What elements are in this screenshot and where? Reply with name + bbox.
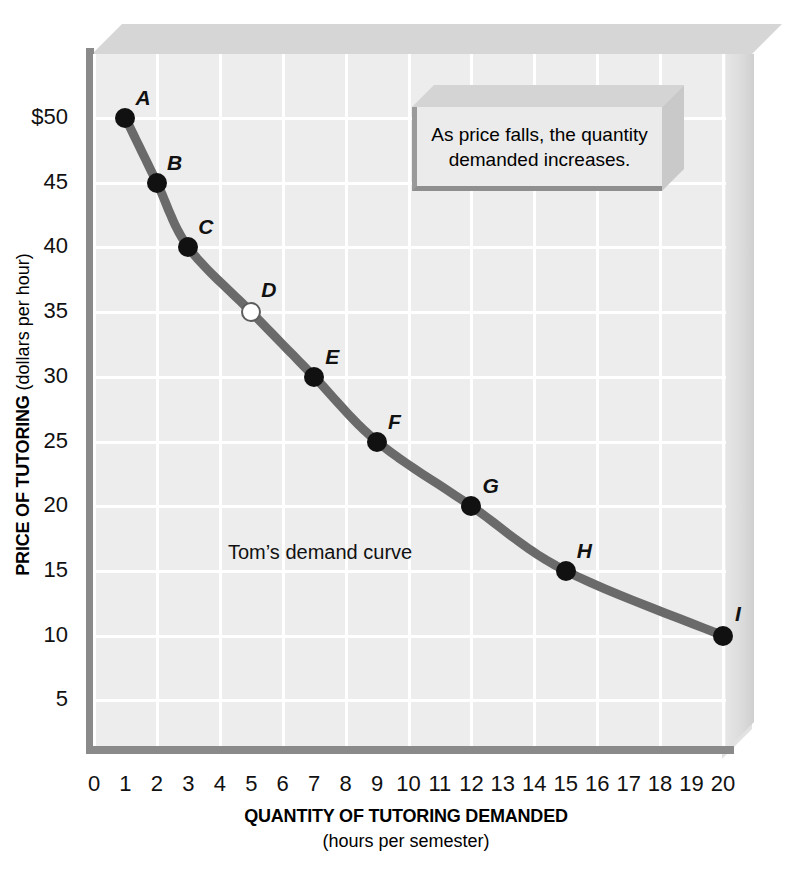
data-point-e (304, 367, 324, 387)
data-point-label-e: E (325, 345, 339, 369)
data-point-h (556, 561, 576, 581)
callout-face: As price falls, the quantity demanded in… (412, 107, 662, 191)
x-axis-title: QUANTITY OF TUTORING DEMANDED (86, 806, 726, 827)
y-axis-title-sub-space (13, 390, 33, 395)
y-tick-label: 5 (56, 686, 68, 712)
vertical-gridline (282, 54, 285, 746)
x-axis-subtitle: (hours per semester) (86, 831, 726, 852)
horizontal-gridline (94, 441, 726, 444)
vertical-gridline (156, 54, 159, 746)
data-point-b (147, 173, 167, 193)
chart-slab-top-bevel (92, 24, 782, 54)
horizontal-gridline (94, 635, 726, 638)
y-tick-label: 15 (44, 557, 68, 583)
callout-box: As price falls, the quantity demanded in… (412, 85, 684, 213)
y-tick-label: 45 (44, 169, 68, 195)
y-tick-label: 30 (44, 363, 68, 389)
horizontal-gridline (94, 699, 726, 702)
vertical-gridline (219, 54, 222, 746)
vertical-gridline (408, 54, 411, 746)
data-point-label-d: D (261, 278, 276, 302)
data-point-label-a: A (135, 86, 150, 110)
data-point-label-b: B (167, 151, 182, 175)
y-axis-title: PRICE OF TUTORING (dollars per hour) (13, 180, 34, 650)
callout-line-2: demanded increases. (449, 149, 631, 170)
chart-slab-right-face (722, 54, 754, 754)
y-axis-title-sub: (dollars per hour) (13, 253, 33, 390)
curve-annotation-label: Tom’s demand curve (228, 541, 412, 564)
y-tick-label: 40 (44, 233, 68, 259)
data-point-label-h: H (577, 539, 592, 563)
data-point-label-i: I (735, 602, 741, 626)
y-tick-label: 25 (44, 428, 68, 454)
y-tick-label: 20 (44, 492, 68, 518)
callout-side-bevel (662, 85, 684, 213)
data-point-label-g: G (482, 474, 498, 498)
x-axis-line (86, 746, 734, 754)
callout-text: As price falls, the quantity demanded in… (423, 122, 656, 172)
data-point-label-f: F (388, 410, 401, 434)
callout-top-bevel (412, 85, 684, 107)
demand-curve-figure: ABCDEFGHI 51015202530354045$50 012345678… (0, 0, 805, 872)
callout-line-1: As price falls, the quantity (431, 124, 648, 145)
horizontal-gridline (94, 570, 726, 573)
vertical-gridline (93, 54, 96, 746)
horizontal-gridline (94, 505, 726, 508)
y-tick-label: 35 (44, 298, 68, 324)
data-point-f (367, 432, 387, 452)
x-tick-label: 20 (703, 771, 743, 797)
data-point-i (713, 626, 733, 646)
horizontal-gridline (94, 376, 726, 379)
data-point-label-c: C (198, 215, 213, 239)
horizontal-gridline (94, 311, 726, 314)
y-tick-label: 10 (44, 622, 68, 648)
y-axis-title-main: PRICE OF TUTORING (13, 395, 33, 575)
y-tick-label: $50 (31, 104, 68, 130)
vertical-gridline (345, 54, 348, 746)
